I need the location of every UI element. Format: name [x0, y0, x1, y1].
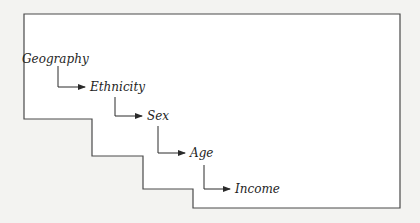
- staircase-outline: [24, 14, 400, 208]
- node-label-age: Age: [190, 147, 213, 159]
- node-label-income: Income: [235, 183, 280, 195]
- node-label-geography: Geography: [22, 53, 89, 65]
- node-label-ethnicity: Ethnicity: [90, 81, 145, 93]
- node-label-sex: Sex: [147, 110, 169, 122]
- diagram-lines: [0, 0, 420, 223]
- diagram-canvas: Geography Ethnicity Sex Age Income: [0, 0, 420, 223]
